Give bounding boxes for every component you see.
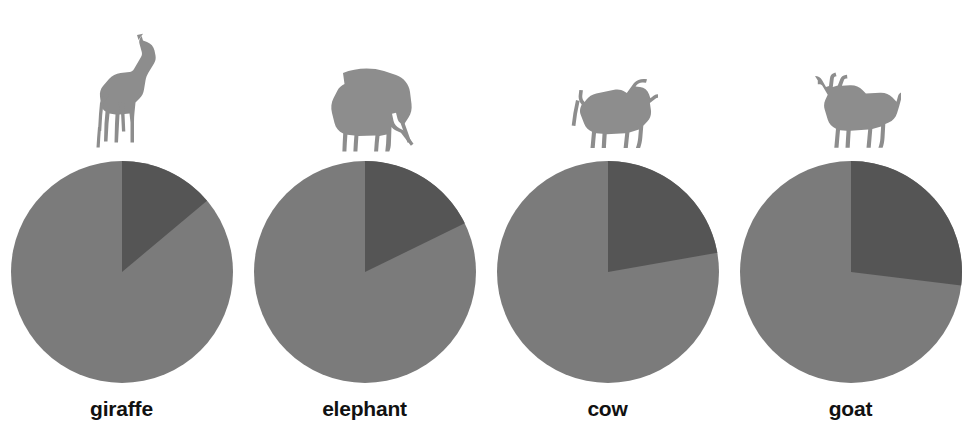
animal-icon-slot: [0, 6, 243, 158]
panel-label-giraffe: giraffe: [0, 396, 243, 422]
pie-dark-slice: [608, 161, 717, 272]
panel-label-goat: goat: [729, 396, 972, 422]
chart-panel-giraffe: giraffe: [0, 0, 243, 428]
pie-chart-cow: [486, 160, 729, 384]
cow-silhouette-icon: [558, 70, 658, 158]
pie-chart-figure: giraffe elephant: [0, 0, 972, 428]
pie-chart-goat: [729, 160, 972, 384]
goat-silhouette-icon: [801, 68, 901, 158]
panel-label-cow: cow: [486, 396, 729, 422]
chart-panel-goat: goat: [729, 0, 972, 428]
giraffe-silhouette-icon: [74, 28, 170, 158]
pie-chart-elephant: [243, 160, 486, 384]
animal-icon-slot: [729, 6, 972, 158]
pie-chart-giraffe: [0, 160, 243, 384]
panel-label-elephant: elephant: [243, 396, 486, 422]
chart-panel-cow: cow: [486, 0, 729, 428]
pie-dark-slice: [851, 161, 962, 286]
animal-icon-slot: [486, 6, 729, 158]
animal-icon-slot: [243, 6, 486, 158]
chart-panel-elephant: elephant: [243, 0, 486, 428]
elephant-silhouette-icon: [313, 66, 417, 158]
